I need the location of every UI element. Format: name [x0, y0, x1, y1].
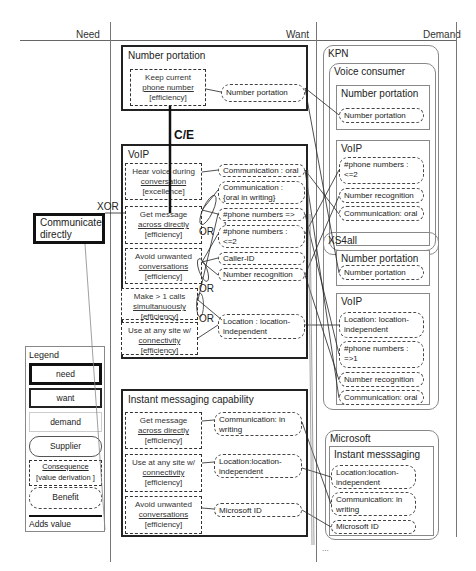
consequence-line2: conversation [126, 177, 201, 187]
consequence-line1: Use at any site w/ [122, 326, 197, 336]
benefit-phone-numbers-le2[interactable]: #phone numbers : <=2 [218, 225, 305, 248]
header-divider [20, 40, 456, 41]
benefit-xs4all-number-portation[interactable]: Number portation [339, 265, 424, 280]
column-divider-right [456, 22, 457, 537]
consequence-line3: [efficiency] [126, 520, 201, 530]
want-title: Instant messaging capability [128, 394, 254, 405]
segment-name: Voice consumer [334, 66, 405, 77]
supplier-name: KPN [328, 48, 349, 59]
benefit-ms-location[interactable]: Location:location-independent [331, 465, 416, 489]
benefit-kpn-number-portation[interactable]: Number portation [339, 108, 424, 123]
want-title: Number portation [128, 50, 205, 61]
consequence-line3: [efficiency] [122, 346, 197, 356]
legend: Legend need want demand Supplier Consequ… [25, 346, 105, 532]
consequence-keep-current-number[interactable]: Keep current phone number [efficiency] [130, 69, 206, 106]
legend-title: Legend [29, 350, 59, 360]
consequence-line3: [efficiency] [131, 93, 205, 103]
consequence-use-any-site[interactable]: Use at any site w/ connectivity [efficie… [121, 322, 198, 355]
benefit-xs4all-communication-oral[interactable]: Communication: oral [339, 390, 424, 405]
consequence-line2: across directly [126, 426, 201, 436]
consequence-get-message[interactable]: Get message across directly [efficiency] [125, 206, 202, 244]
consequence-line1: Hear voice during [126, 167, 201, 177]
legend-adds-value: Adds value [29, 519, 71, 529]
demand-title: Instant messsaging [334, 449, 420, 460]
consequence-line2: connectivity [122, 336, 197, 346]
want-title: VoIP [128, 149, 149, 160]
consequence-line2: connectivity [126, 468, 201, 478]
consequence-line2: conversations [126, 510, 201, 520]
benefit-xs4all-phone-numbers[interactable]: #phone numbers : =>1 [339, 341, 424, 368]
demand-title: Number portation [341, 253, 418, 264]
consequence-line1: Keep current [131, 73, 205, 83]
benefit-xs4all-location[interactable]: Location: location-independent [339, 312, 424, 338]
benefit-location-independent[interactable]: Location : location-independent [218, 314, 305, 339]
consequence-line3: [efficiency] [122, 312, 197, 322]
column-divider-need-want [110, 22, 111, 562]
consequence-im-use-any-site[interactable]: Use at any site w/ connectivity [efficie… [125, 454, 202, 492]
benefit-kpn-communication-oral[interactable]: Communication: oral [339, 206, 424, 221]
consequence-line3: [excellence] [126, 187, 201, 197]
legend-consequence-line2: [value derivation ] [30, 472, 101, 483]
consequence-im-avoid-unwanted[interactable]: Avoid unwanted conversations [efficiency… [125, 496, 202, 534]
consequence-line3: [efficiency] [126, 478, 201, 488]
consequence-line1: Use at any site w/ [126, 458, 201, 468]
xor-label: XOR [97, 201, 119, 212]
legend-demand: demand [29, 412, 102, 432]
benefit-ms-communication-writing[interactable]: Communication: in writing [331, 492, 416, 516]
consequence-line2: across directly [126, 220, 201, 230]
benefit-number-recognition[interactable]: Number recognition [218, 268, 305, 281]
consequence-line1: Get message [126, 416, 201, 426]
consequence-line1: Make > 1 calls [122, 292, 197, 302]
ellipsis: ... [322, 544, 329, 553]
or-label: OR [199, 313, 214, 324]
benefit-communication-oral[interactable]: Communication : oral [218, 164, 305, 177]
benefit-kpn-number-recognition[interactable]: Number recognition [339, 188, 424, 203]
legend-adds-value-line [29, 515, 102, 517]
legend-benefit: Benefit [29, 487, 102, 509]
ce-label: C/E [174, 128, 194, 142]
consequence-line2: conversations [126, 262, 201, 272]
consequence-make-multiple-calls[interactable]: Make > 1 calls simultanuously [efficienc… [121, 288, 198, 320]
benefit-im-communication-writing[interactable]: Communication: in writing [214, 412, 302, 436]
benefit-communication-oral-writing[interactable]: Communication : {oral in writing} [218, 181, 305, 204]
consequence-line1: Avoid unwanted [126, 252, 201, 262]
supplier-name: XS4all [328, 235, 357, 246]
demand-title: VoIP [341, 143, 362, 154]
consequence-hear-voice[interactable]: Hear voice during conversation [excellen… [125, 163, 202, 200]
or-label: OR [199, 226, 214, 237]
legend-need: need [29, 363, 102, 385]
need-communicate-directly[interactable]: Communicate directly [33, 213, 105, 244]
demand-title: Number portation [341, 88, 418, 99]
benefit-ms-microsoft-id[interactable]: Microsoft ID [331, 520, 416, 534]
consequence-avoid-unwanted[interactable]: Avoid unwanted conversations [efficiency… [125, 248, 202, 284]
consequence-line1: Get message [126, 210, 201, 220]
legend-consequence: Consequence [value derivation ] [29, 460, 102, 486]
benefit-kpn-phone-numbers[interactable]: #phone numbers : <=2 [339, 157, 424, 184]
benefit-im-location-independent[interactable]: Location:location-independent [214, 454, 302, 478]
legend-supplier: Supplier [29, 436, 102, 457]
benefit-phone-numbers-ge1[interactable]: #phone numbers => 1 [218, 208, 305, 221]
supplier-name: Microsoft [330, 433, 371, 444]
legend-want: want [29, 388, 102, 408]
column-header-want: Want [286, 29, 309, 40]
consequence-line3: [efficiency] [126, 230, 201, 240]
or-label: OR [199, 283, 214, 294]
legend-consequence-line1: Consequence [30, 461, 101, 472]
consequence-line2: simultanuously [122, 302, 197, 312]
consequence-line3: [efficiency] [126, 272, 201, 282]
demand-title: VoIP [341, 296, 362, 307]
consequence-line1: Avoid unwanted [126, 500, 201, 510]
benefit-caller-id[interactable]: Caller-ID [218, 252, 305, 265]
column-divider-want-demand [316, 22, 317, 562]
consequence-line3: [efficiency] [126, 436, 201, 446]
consequence-line2: phone number [131, 83, 205, 93]
benefit-number-portation[interactable]: Number portation [221, 84, 305, 102]
benefit-xs4all-number-recognition[interactable]: Number recognition [339, 372, 424, 387]
column-header-need: Need [76, 29, 100, 40]
benefit-im-microsoft-id[interactable]: Microsoft ID [214, 503, 302, 517]
consequence-im-get-message[interactable]: Get message across directly [efficiency] [125, 412, 202, 449]
